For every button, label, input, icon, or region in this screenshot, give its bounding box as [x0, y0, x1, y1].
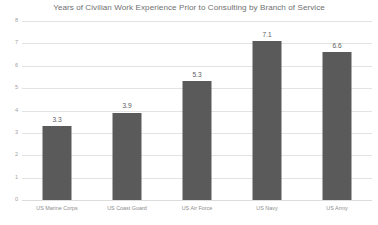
- x-axis-categories: US Marine CorpsUS Coast GuardUS Air Forc…: [22, 206, 372, 220]
- x-axis-category-label: US Marine Corps: [36, 206, 77, 211]
- bar[interactable]: [253, 41, 282, 200]
- y-axis-tick-label: 6: [15, 63, 18, 69]
- bar-chart: Years of Civilian Work Experience Prior …: [0, 0, 378, 225]
- y-axis-tick-label: 3: [15, 130, 18, 136]
- gridline: [22, 200, 372, 201]
- plot-area: 012345678 3.33.95.37.16.6: [22, 21, 372, 200]
- y-axis-tick-label: 4: [15, 108, 18, 114]
- bar-slot: 5.3: [162, 21, 232, 200]
- bar-value-label: 3.3: [52, 117, 61, 124]
- bar-slot: 3.3: [22, 21, 92, 200]
- x-axis-category-label: US Army: [326, 206, 347, 211]
- x-axis-category-label: US Air Force: [182, 206, 213, 211]
- y-axis-tick-label: 0: [15, 197, 18, 203]
- bar-series: 3.33.95.37.16.6: [22, 21, 372, 200]
- bar-value-label: 6.6: [332, 43, 341, 50]
- bar[interactable]: [323, 52, 352, 200]
- bar[interactable]: [43, 126, 72, 200]
- y-axis-tick-label: 5: [15, 85, 18, 91]
- y-axis-tick-label: 1: [15, 175, 18, 181]
- bar-value-label: 5.3: [192, 72, 201, 79]
- bar-value-label: 7.1: [262, 32, 271, 39]
- bar[interactable]: [183, 81, 212, 200]
- x-axis-category-label: US Coast Guard: [107, 206, 147, 211]
- y-axis-tick-label: 2: [15, 152, 18, 158]
- bar-slot: 6.6: [302, 21, 372, 200]
- bar-value-label: 3.9: [122, 103, 131, 110]
- bar[interactable]: [113, 113, 142, 200]
- chart-title: Years of Civilian Work Experience Prior …: [0, 3, 378, 12]
- y-axis-tick-label: 7: [15, 41, 18, 47]
- y-axis-tick-label: 8: [15, 18, 18, 24]
- bar-slot: 3.9: [92, 21, 162, 200]
- x-axis-category-label: US Navy: [256, 206, 277, 211]
- bar-slot: 7.1: [232, 21, 302, 200]
